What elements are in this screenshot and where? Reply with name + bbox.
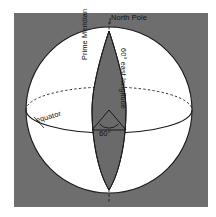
east-longitude-label: 60° east longitude	[119, 48, 127, 109]
north-pole-label: North Pole	[111, 14, 147, 22]
longitude-globe-figure: North Pole Prime Meridian 60° east longi…	[0, 0, 216, 217]
globe-diagram-svg	[0, 0, 216, 217]
prime-meridian-label: Prime Meridian	[81, 9, 89, 60]
central-angle-label: 60°	[99, 130, 111, 138]
